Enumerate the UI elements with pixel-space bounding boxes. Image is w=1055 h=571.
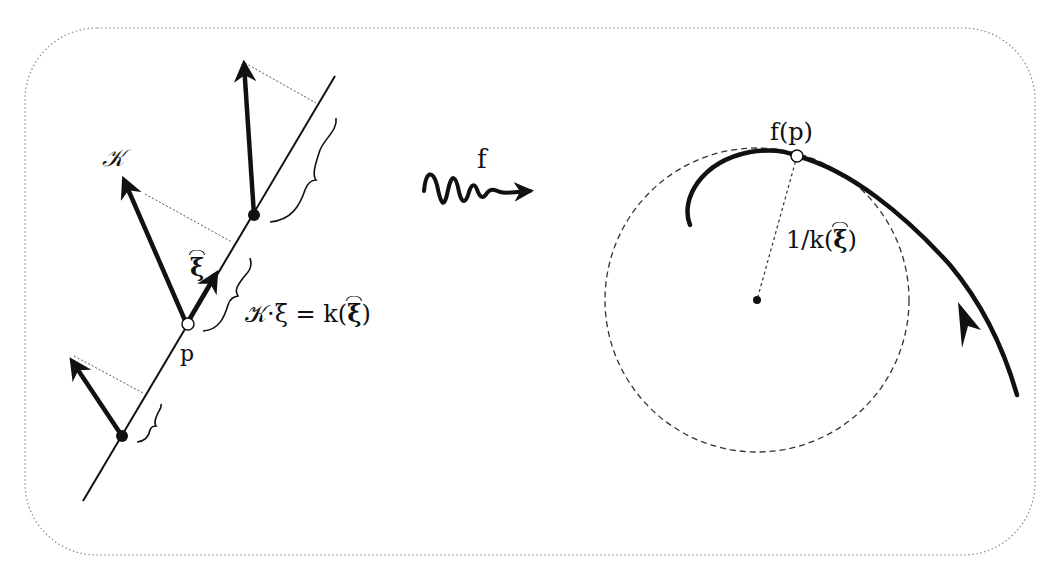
- equation-rhs-fn: k(: [323, 300, 347, 328]
- curvature-vector-p: [124, 180, 187, 325]
- radius-label: 1/k(ξ): [786, 228, 857, 252]
- projection-line-low: [74, 356, 143, 393]
- brace-mid: [203, 258, 251, 331]
- map-arrow: [424, 174, 530, 202]
- projection-line-mid: [145, 194, 232, 242]
- point-top: [248, 209, 260, 221]
- curvature-vector-top: [244, 64, 254, 215]
- image-curve: [688, 151, 1018, 395]
- point-p-label: p: [180, 343, 194, 365]
- left-panel: [72, 63, 336, 501]
- dotted-frame: [25, 28, 1035, 555]
- curvature-vector-label: 𝒦: [102, 146, 124, 170]
- unit-direction-label: ξ: [190, 256, 204, 280]
- curvature-vector-low: [72, 361, 122, 436]
- squiggle-arrow-icon: [424, 174, 530, 202]
- point-low: [116, 430, 128, 442]
- projection-line-top: [245, 63, 316, 103]
- radius-label-prefix: 1/k(: [786, 226, 833, 254]
- right-panel: [605, 148, 1017, 452]
- equation-equals: =: [296, 300, 316, 328]
- image-point-label: f(p): [770, 120, 813, 144]
- point-p: [182, 318, 194, 330]
- equation-lhs: 𝒦·ξ: [245, 300, 288, 328]
- circle-center: [753, 296, 761, 304]
- equation-rhs-close: ): [361, 300, 370, 328]
- radius-label-suffix: ): [847, 226, 856, 254]
- equation-label: 𝒦·ξ = k(ξ): [245, 302, 371, 326]
- curve-direction-arrow-icon: [958, 302, 981, 348]
- equation-rhs-arg: ξ: [347, 302, 361, 326]
- radius-label-arg: ξ: [833, 228, 847, 252]
- map-label: f: [477, 146, 487, 172]
- xi-hat: ξ: [190, 256, 204, 280]
- diagram-canvas: [0, 0, 1055, 571]
- image-point-fp: [791, 150, 803, 162]
- brace-low: [137, 404, 161, 442]
